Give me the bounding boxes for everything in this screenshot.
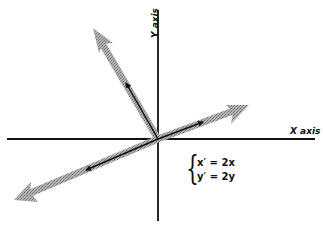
transformation-equations: { x′ = 2x y′ = 2y [186,150,246,188]
y-axis-label: Y axis [150,8,160,38]
original-vector-right [158,122,203,139]
equation-x: x′ = 2x [197,157,235,168]
original-vector-down-left [86,139,158,170]
x-axis-label: X axis [290,126,320,136]
equation-y: y′ = 2y [197,171,235,182]
original-vector-up-left [126,83,158,139]
coordinate-diagram [0,0,323,227]
